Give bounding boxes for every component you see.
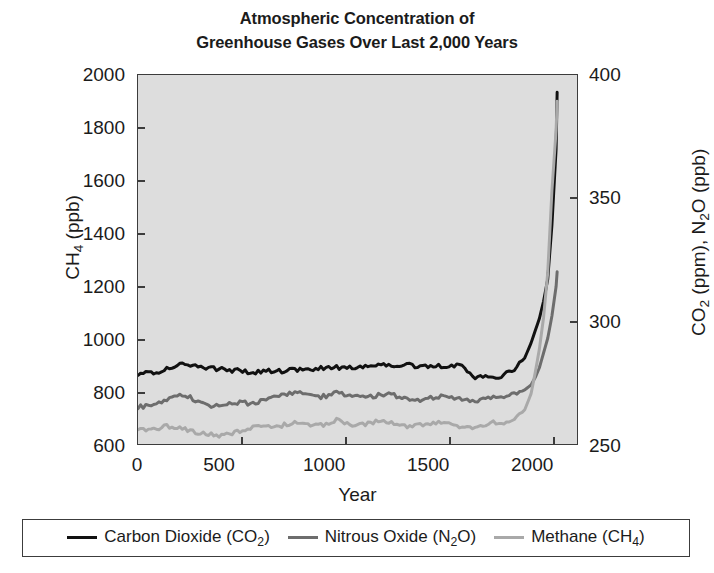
legend-label-methane: Methane (CH4) <box>531 527 645 549</box>
series-line-nitrous-oxide-n2o- <box>138 272 557 409</box>
xtick-0: 0 <box>117 455 157 474</box>
plot-lines-svg <box>138 75 577 444</box>
ytick-right-350: 350 <box>589 188 621 207</box>
ytick-right-300: 300 <box>589 312 621 331</box>
y-axis-right-tail: O (ppb) <box>688 149 709 213</box>
xtick-2000: 2000 <box>511 455 551 474</box>
series-line-methane-ch4- <box>138 101 557 437</box>
xtick-500: 500 <box>199 455 239 474</box>
chart-legend: Carbon Dioxide (CO2) Nitrous Oxide (N2O)… <box>22 519 690 557</box>
legend-entry-carbon-dioxide: Carbon Dioxide (CO2) <box>67 527 270 549</box>
xtick-1000: 1000 <box>303 455 343 474</box>
co2-line-swatch-icon <box>67 536 97 539</box>
plot-area <box>137 74 578 445</box>
legend-label-nitrous-oxide-main: Nitrous Oxide (N <box>325 527 451 546</box>
y-axis-right-subscript-co2: 2 <box>697 300 712 308</box>
tick-mark-x-2000 <box>553 437 555 445</box>
y-axis-left-unit: (ppb) <box>62 195 83 245</box>
legend-label-carbon-dioxide: Carbon Dioxide (CO2) <box>104 527 270 549</box>
y-axis-left-title-text: CH <box>62 252 83 279</box>
legend-label-nitrous-oxide-tail: O) <box>457 527 476 546</box>
y-axis-left-title: CH4 (ppb) <box>62 157 87 317</box>
legend-label-methane-tail: ) <box>639 527 645 546</box>
y-axis-left-subscript: 4 <box>71 245 86 253</box>
legend-label-carbon-dioxide-tail: ) <box>264 527 270 546</box>
legend-label-nitrous-oxide: Nitrous Oxide (N2O) <box>325 527 476 549</box>
tick-mark-right-300 <box>570 321 578 323</box>
n2o-line-swatch-icon <box>288 536 318 539</box>
y-axis-right-mid: (ppm), N <box>688 221 709 300</box>
ytick-right-400: 400 <box>589 65 621 84</box>
tick-mark-x-1500 <box>449 437 451 445</box>
tick-mark-left-800 <box>137 392 145 394</box>
ytick-left-600: 600 <box>93 436 125 455</box>
tick-mark-x-500 <box>241 437 243 445</box>
ch4-line-swatch-icon <box>494 536 524 539</box>
tick-mark-right-350 <box>570 197 578 199</box>
ytick-left-2000: 2000 <box>83 65 125 84</box>
tick-mark-left-1200 <box>137 286 145 288</box>
chart-title-line-1: Atmospheric Concentration of <box>0 6 714 30</box>
xtick-1500: 1500 <box>407 455 447 474</box>
ytick-left-1800: 1800 <box>83 118 125 137</box>
ytick-left-1400: 1400 <box>83 224 125 243</box>
ytick-left-1600: 1600 <box>83 171 125 190</box>
legend-entry-methane: Methane (CH4) <box>494 527 645 549</box>
x-axis-title: Year <box>137 484 578 506</box>
series-line-carbon-dioxide-co2- <box>138 92 557 379</box>
tick-mark-left-1000 <box>137 339 145 341</box>
y-axis-right-title-co2: CO <box>688 308 709 337</box>
y-axis-right-title: CO2 (ppm), N2O (ppb) <box>688 102 713 382</box>
tick-mark-left-1600 <box>137 180 145 182</box>
legend-label-methane-main: Methane (CH <box>531 527 632 546</box>
y-axis-right-subscript-n2o: 2 <box>697 213 712 221</box>
ytick-left-1200: 1200 <box>83 277 125 296</box>
ytick-left-1000: 1000 <box>83 330 125 349</box>
tick-mark-x-1000 <box>345 437 347 445</box>
greenhouse-gas-chart-figure: Atmospheric Concentration of Greenhouse … <box>0 0 714 573</box>
chart-title-line-2: Greenhouse Gases Over Last 2,000 Years <box>0 30 714 54</box>
ytick-right-250: 250 <box>589 436 621 455</box>
chart-title: Atmospheric Concentration of Greenhouse … <box>0 6 714 54</box>
ytick-left-800: 800 <box>93 383 125 402</box>
tick-mark-left-1800 <box>137 127 145 129</box>
tick-mark-left-1400 <box>137 233 145 235</box>
legend-label-carbon-dioxide-main: Carbon Dioxide (CO <box>104 527 257 546</box>
legend-entry-nitrous-oxide: Nitrous Oxide (N2O) <box>288 527 476 549</box>
